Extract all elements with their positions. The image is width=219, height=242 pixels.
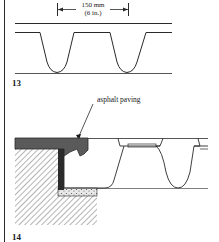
ground-hatched (15, 149, 97, 225)
figure-14: asphalt paving 14 (12, 95, 208, 242)
grating-bar (128, 144, 156, 147)
figure-13: 150 mm (6 in.) 13 (12, 1, 172, 88)
dimension-imperial-label: (6 in.) (84, 9, 102, 17)
dimension-metric-label: 150 mm (81, 1, 105, 9)
dimension-annotation: 150 mm (6 in.) (58, 1, 129, 17)
figure-number: 13 (12, 78, 22, 88)
channel-profile (15, 33, 172, 73)
arrowhead-right-icon (123, 8, 128, 12)
edge-membrane (58, 148, 64, 190)
arrowhead-left-icon (58, 8, 63, 12)
drainage-channel-diagram: 150 mm (6 in.) 13 asphalt paving 14 (0, 0, 219, 242)
callout-leader-line (79, 104, 93, 136)
asphalt-paving-callout: asphalt paving (97, 95, 141, 104)
figure-number: 14 (12, 232, 22, 242)
